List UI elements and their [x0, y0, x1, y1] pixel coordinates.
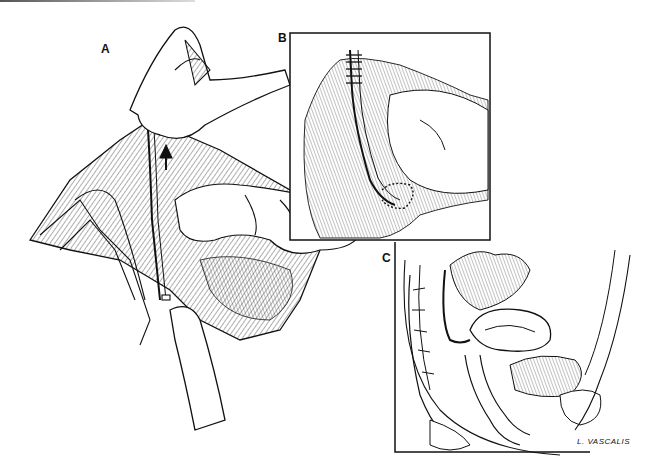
- artist-signature: L. VASCALIS: [577, 437, 630, 446]
- panel-b-inset: [290, 33, 490, 240]
- panel-label-c: C: [382, 251, 391, 265]
- illustration: [0, 0, 656, 470]
- panel-label-b: B: [278, 31, 287, 45]
- panel-c-inset: [395, 242, 630, 455]
- panel-label-a: A: [101, 42, 110, 56]
